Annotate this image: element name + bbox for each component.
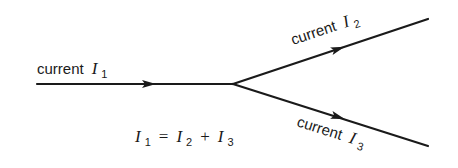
arrow-icon-current-2 [330, 43, 346, 55]
label-current-1: current I 1 [37, 59, 107, 80]
svg-text:current I 1: current I 1 [37, 59, 107, 80]
label-current-3: current I 3 [294, 112, 368, 153]
arrow-icon-current-3 [330, 111, 346, 123]
svg-text:current I 3: current I 3 [294, 112, 368, 153]
svg-text:I 1 = I: I 1 = I 2 + I 3 [134, 127, 234, 149]
junction-diagram: current I 1 current I 2 current I 3 I 1 … [0, 0, 458, 168]
equation-kcl: I 1 = I 2 + I 3 [134, 127, 234, 149]
